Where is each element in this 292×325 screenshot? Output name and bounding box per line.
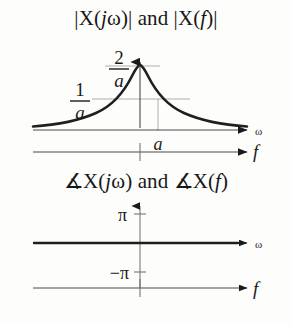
- phase-ytick-label-neg-pi: −π: [110, 263, 129, 283]
- phase-f-axis-label: f: [253, 278, 261, 299]
- phase-plot-svg: π −π ω f: [0, 0, 292, 325]
- phase-omega-axis-label: ω: [255, 238, 262, 250]
- phase-ytick-label-pi: π: [118, 205, 127, 225]
- figure-container: |X(jω)| and |X(f)| ∡X(jω) and ∡X(f) 2 a: [0, 0, 292, 325]
